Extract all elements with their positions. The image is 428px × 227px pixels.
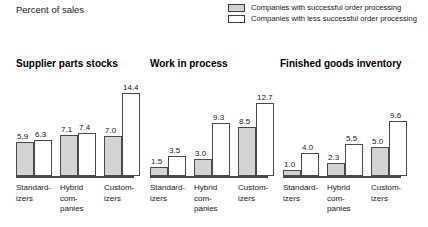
bar-value-label: 2.3 (328, 153, 339, 162)
bar-value-label: 1.5 (151, 157, 162, 166)
plot-area: 1.04.02.35.55.09.6 (283, 88, 401, 178)
bar (168, 156, 186, 176)
bar (212, 123, 230, 176)
bar (122, 93, 140, 176)
bar-value-label: 5.0 (372, 137, 383, 146)
category-label: Hybridcom-panies (194, 183, 236, 215)
legend-label-less-successful: Companies with less successful order pro… (251, 14, 417, 23)
bar-value-label: 6.3 (35, 130, 46, 139)
bar (256, 103, 274, 176)
bar-value-label: 9.3 (213, 113, 224, 122)
bar-value-label: 4.0 (302, 143, 313, 152)
bar (150, 167, 168, 176)
panel-title: Work in process (150, 58, 228, 70)
axis-baseline (16, 176, 134, 178)
axis-baseline (150, 176, 268, 178)
category-label: Hybridcom-panies (327, 183, 369, 215)
bar-value-label: 8.5 (239, 117, 250, 126)
bar (104, 136, 122, 176)
bar (16, 142, 34, 176)
bar-value-label: 12.7 (257, 93, 273, 102)
bar (389, 121, 407, 176)
bar (301, 153, 319, 176)
legend-item-less-successful: Companies with less successful order pro… (228, 14, 417, 23)
percent-of-sales-label: Percent of sales (16, 4, 84, 16)
bar-value-label: 5.9 (17, 132, 28, 141)
plot-area: 1.53.53.09.38.512.7 (150, 88, 268, 178)
plot-area: 5.96.37.17.47.014.4 (16, 88, 134, 178)
bar (345, 144, 363, 176)
legend-label-successful: Companies with successful order processi… (251, 3, 401, 12)
bar (78, 133, 96, 176)
category-label: Custom-izers (104, 183, 146, 204)
bar (60, 135, 78, 176)
bar-value-label: 7.1 (61, 125, 72, 134)
figure-root: Percent of sales Companies with successf… (0, 0, 428, 227)
bar-value-label: 7.0 (105, 126, 116, 135)
legend: Companies with successful order processi… (228, 3, 417, 23)
category-label: Standard-izers (16, 183, 58, 204)
legend-swatch-less-successful-icon (228, 15, 245, 23)
bar (238, 127, 256, 176)
panel-title: Supplier parts stocks (16, 58, 118, 70)
category-label: Hybridcom-panies (60, 183, 102, 215)
category-label: Custom-izers (238, 183, 280, 204)
category-label: Custom-izers (371, 183, 413, 204)
bar-value-label: 7.4 (79, 123, 90, 132)
panel-title: Finished goods inventory (280, 58, 402, 70)
bar (371, 147, 389, 176)
bar-value-label: 9.6 (390, 111, 401, 120)
legend-swatch-successful-icon (228, 4, 245, 12)
bar-value-label: 3.0 (195, 149, 206, 158)
axis-baseline (283, 176, 401, 178)
bar (34, 140, 52, 176)
category-label: Standard-izers (150, 183, 192, 204)
legend-item-successful: Companies with successful order processi… (228, 3, 417, 12)
category-label: Standard-izers (283, 183, 325, 204)
bar (283, 170, 301, 176)
bar-value-label: 1.0 (284, 160, 295, 169)
bar-value-label: 3.5 (169, 146, 180, 155)
bar (327, 163, 345, 176)
bar-value-label: 5.5 (346, 134, 357, 143)
bar (194, 159, 212, 176)
bar-value-label: 14.4 (123, 83, 139, 92)
